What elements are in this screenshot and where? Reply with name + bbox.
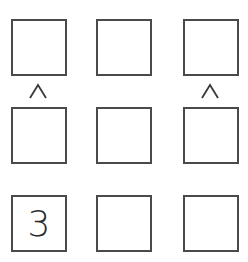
- cell-r3c2[interactable]: [96, 195, 152, 252]
- cell-r3c3[interactable]: [183, 195, 239, 252]
- cell-r2c3[interactable]: [183, 107, 239, 164]
- cell-r1c3[interactable]: [183, 19, 239, 76]
- cell-r2c1[interactable]: [11, 107, 67, 164]
- cell-r1c1[interactable]: [11, 19, 67, 76]
- cell-r1c2[interactable]: [96, 19, 152, 76]
- cell-r3c1[interactable]: 3: [11, 195, 67, 252]
- less-than-up-caret-icon: [200, 83, 220, 99]
- cell-r2c2[interactable]: [96, 107, 152, 164]
- less-than-up-caret-icon: [28, 83, 48, 99]
